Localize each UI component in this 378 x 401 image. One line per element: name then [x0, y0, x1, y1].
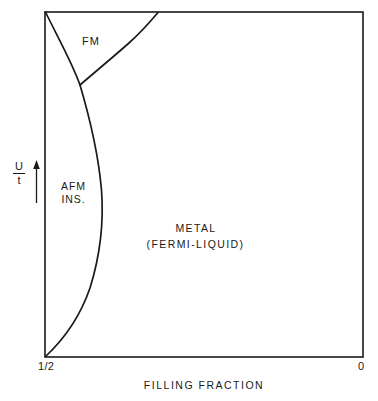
y-axis-label: U t [13, 161, 25, 186]
y-axis-numerator: U [14, 161, 24, 173]
phase-diagram-figure: FM AFM INS. METAL (FERMI-LIQUID) 1/2 0 F… [0, 0, 378, 401]
y-axis-fraction: U t [13, 161, 25, 186]
x-axis-tick-label-left: 1/2 [38, 360, 54, 374]
region-label-metal-line2: (FERMI-LIQUID) [147, 238, 245, 251]
phase-diagram-canvas [0, 0, 378, 401]
y-axis-denominator: t [16, 174, 21, 186]
region-label-afm-line1: AFM [61, 180, 86, 192]
up-arrow-icon [33, 160, 40, 203]
plot-frame [45, 12, 363, 357]
region-label-fm: FM [82, 35, 100, 49]
region-label-afm-insulator: AFM INS. [61, 180, 86, 206]
region-label-afm-line2: INS. [61, 193, 86, 206]
region-label-metal: METAL (FERMI-LIQUID) [148, 222, 245, 251]
x-axis-tick-label-right: 0 [358, 360, 364, 374]
x-axis-title: FILLING FRACTION [144, 379, 264, 392]
region-label-metal-line1: METAL [148, 222, 245, 235]
fm-phase-boundary-curve [80, 13, 158, 86]
